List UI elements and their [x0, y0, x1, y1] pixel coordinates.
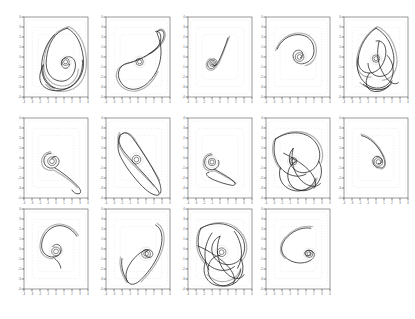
- svg-text:-4: -4: [18, 196, 21, 200]
- svg-text:3: 3: [161, 100, 163, 104]
- svg-text:-2: -2: [281, 100, 284, 104]
- svg-text:-3: -3: [338, 186, 341, 190]
- svg-text:-2: -2: [100, 176, 103, 180]
- plot-panel[interactable]: -4-3-2-10123443210-1-2-3-4: [334, 14, 410, 106]
- svg-text:2: 2: [153, 292, 155, 296]
- plot-panel[interactable]: -4-3-2-10123443210-1-2-3-4: [256, 14, 332, 106]
- plot-panel[interactable]: -4-3-2-10123443210-1-2-3-4: [96, 14, 172, 106]
- svg-text:4: 4: [329, 292, 331, 296]
- svg-text:2: 2: [183, 35, 185, 39]
- svg-text:2: 2: [19, 35, 21, 39]
- plot-background: [266, 209, 330, 289]
- svg-text:-3: -3: [18, 186, 21, 190]
- svg-text:-3: -3: [260, 277, 263, 281]
- plot-panel[interactable]: -4-3-2-10123443210-1-2-3-4: [334, 115, 410, 207]
- plot-panel[interactable]: -4-3-2-10123443210-1-2-3-4: [178, 115, 254, 207]
- svg-text:3: 3: [339, 25, 341, 29]
- plot-panel[interactable]: -4-3-2-10123443210-1-2-3-4: [14, 206, 90, 298]
- svg-text:-4: -4: [182, 287, 185, 291]
- svg-text:1: 1: [183, 237, 185, 241]
- svg-text:-1: -1: [338, 166, 341, 170]
- svg-text:-3: -3: [31, 201, 34, 205]
- svg-text:3: 3: [183, 25, 185, 29]
- svg-text:-1: -1: [47, 201, 50, 205]
- svg-text:2: 2: [183, 227, 185, 231]
- svg-text:1: 1: [339, 146, 341, 150]
- svg-text:4: 4: [183, 15, 185, 19]
- svg-text:1: 1: [261, 237, 263, 241]
- plot-panel[interactable]: -4-3-2-10123443210-1-2-3-4: [256, 115, 332, 207]
- plot-background: [344, 118, 408, 198]
- svg-text:-3: -3: [182, 85, 185, 89]
- svg-text:-1: -1: [211, 100, 214, 104]
- svg-text:3: 3: [183, 217, 185, 221]
- plot-panel[interactable]: -4-3-2-10123443210-1-2-3-4: [14, 115, 90, 207]
- svg-text:1: 1: [227, 292, 229, 296]
- svg-text:-4: -4: [338, 196, 341, 200]
- svg-text:-1: -1: [100, 257, 103, 261]
- svg-text:-4: -4: [343, 201, 346, 205]
- svg-text:1: 1: [227, 201, 229, 205]
- plot-panel[interactable]: -4-3-2-10123443210-1-2-3-4: [96, 115, 172, 207]
- svg-text:-1: -1: [367, 201, 370, 205]
- svg-text:-4: -4: [23, 201, 26, 205]
- svg-text:-2: -2: [121, 201, 124, 205]
- svg-text:-2: -2: [203, 100, 206, 104]
- svg-text:-1: -1: [129, 201, 132, 205]
- svg-text:4: 4: [101, 116, 103, 120]
- plot-panel[interactable]: -4-3-2-10123443210-1-2-3-4: [256, 206, 332, 298]
- svg-text:2: 2: [235, 201, 237, 205]
- svg-text:2: 2: [339, 136, 341, 140]
- svg-text:-4: -4: [18, 95, 21, 99]
- svg-text:-1: -1: [182, 166, 185, 170]
- svg-text:3: 3: [261, 126, 263, 130]
- svg-text:-1: -1: [211, 201, 214, 205]
- svg-text:-1: -1: [47, 100, 50, 104]
- svg-text:3: 3: [161, 201, 163, 205]
- svg-text:-1: -1: [47, 292, 50, 296]
- svg-text:-3: -3: [113, 292, 116, 296]
- svg-text:-2: -2: [121, 292, 124, 296]
- svg-text:-3: -3: [100, 277, 103, 281]
- plot-axes: -4-3-2-10123443210-1-2-3-4: [256, 14, 332, 106]
- plot-axes: -4-3-2-10123443210-1-2-3-4: [178, 115, 254, 207]
- svg-text:2: 2: [19, 227, 21, 231]
- plot-panel[interactable]: -4-3-2-10123443210-1-2-3-4: [14, 14, 90, 106]
- plot-panel[interactable]: -4-3-2-10123443210-1-2-3-4: [178, 14, 254, 106]
- svg-text:3: 3: [243, 100, 245, 104]
- svg-text:-2: -2: [18, 176, 21, 180]
- svg-text:3: 3: [183, 126, 185, 130]
- svg-text:-4: -4: [260, 95, 263, 99]
- svg-text:-2: -2: [359, 100, 362, 104]
- svg-text:2: 2: [261, 35, 263, 39]
- svg-text:2: 2: [153, 100, 155, 104]
- svg-text:-4: -4: [265, 100, 268, 104]
- svg-text:0: 0: [297, 292, 299, 296]
- svg-text:2: 2: [101, 227, 103, 231]
- svg-text:0: 0: [261, 156, 263, 160]
- plot-background: [24, 118, 88, 198]
- svg-text:0: 0: [375, 100, 377, 104]
- plot-panel[interactable]: -4-3-2-10123443210-1-2-3-4: [96, 206, 172, 298]
- plot-axes: -4-3-2-10123443210-1-2-3-4: [14, 206, 90, 298]
- svg-text:1: 1: [19, 45, 21, 49]
- svg-text:-4: -4: [187, 292, 190, 296]
- svg-text:0: 0: [101, 247, 103, 251]
- svg-text:-4: -4: [100, 95, 103, 99]
- svg-text:4: 4: [101, 207, 103, 211]
- svg-text:1: 1: [101, 146, 103, 150]
- svg-text:2: 2: [313, 201, 315, 205]
- svg-text:1: 1: [261, 45, 263, 49]
- svg-text:-1: -1: [289, 201, 292, 205]
- plot-panel[interactable]: -4-3-2-10123443210-1-2-3-4: [178, 206, 254, 298]
- plot-axes: -4-3-2-10123443210-1-2-3-4: [96, 115, 172, 207]
- svg-text:-2: -2: [100, 267, 103, 271]
- svg-text:-1: -1: [289, 100, 292, 104]
- svg-text:-4: -4: [187, 201, 190, 205]
- svg-text:1: 1: [305, 100, 307, 104]
- svg-text:3: 3: [261, 217, 263, 221]
- svg-text:1: 1: [63, 292, 65, 296]
- svg-text:2: 2: [261, 227, 263, 231]
- svg-text:-4: -4: [343, 100, 346, 104]
- svg-text:1: 1: [383, 100, 385, 104]
